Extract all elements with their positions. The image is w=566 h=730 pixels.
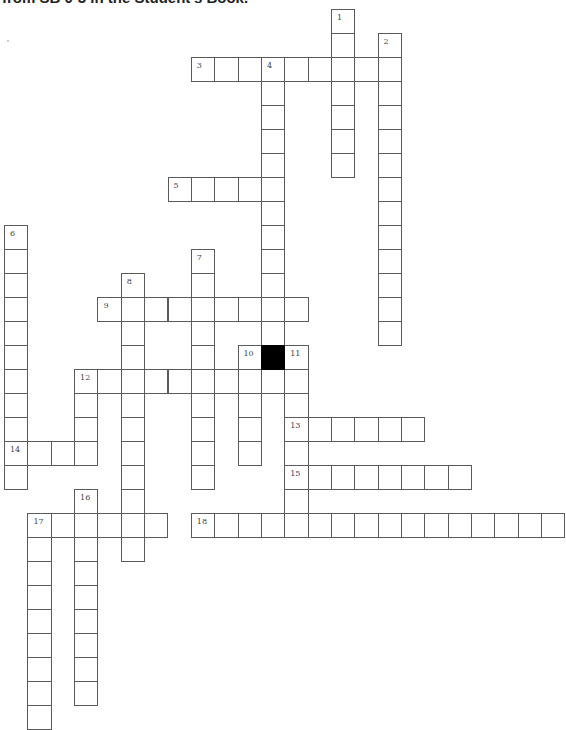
crossword-cell[interactable] bbox=[74, 537, 98, 562]
crossword-cell[interactable] bbox=[238, 417, 262, 442]
crossword-cell[interactable] bbox=[354, 465, 378, 490]
crossword-cell[interactable] bbox=[97, 513, 121, 538]
crossword-cell[interactable]: 3 bbox=[191, 57, 215, 82]
crossword-cell[interactable] bbox=[121, 417, 145, 442]
crossword-cell[interactable]: 15 bbox=[284, 465, 308, 490]
crossword-cell[interactable] bbox=[238, 369, 262, 394]
crossword-cell[interactable] bbox=[448, 513, 472, 538]
crossword-cell[interactable] bbox=[284, 57, 308, 82]
crossword-cell[interactable] bbox=[74, 441, 98, 466]
crossword-cell[interactable] bbox=[74, 561, 98, 586]
crossword-cell[interactable] bbox=[331, 33, 355, 58]
crossword-cell[interactable] bbox=[378, 465, 402, 490]
crossword-cell[interactable] bbox=[401, 465, 425, 490]
crossword-cell[interactable] bbox=[27, 561, 51, 586]
crossword-cell[interactable] bbox=[424, 465, 448, 490]
crossword-cell[interactable] bbox=[494, 513, 518, 538]
crossword-cell[interactable] bbox=[261, 249, 285, 274]
crossword-cell[interactable] bbox=[261, 177, 285, 202]
crossword-cell[interactable] bbox=[471, 513, 495, 538]
crossword-cell[interactable]: 4 bbox=[261, 57, 285, 82]
crossword-cell[interactable] bbox=[121, 369, 145, 394]
crossword-cell[interactable] bbox=[97, 369, 121, 394]
crossword-cell[interactable] bbox=[541, 513, 565, 538]
crossword-cell[interactable] bbox=[168, 369, 192, 394]
crossword-cell[interactable] bbox=[121, 345, 145, 370]
crossword-cell[interactable] bbox=[4, 417, 28, 442]
crossword-cell[interactable] bbox=[74, 657, 98, 682]
crossword-cell[interactable]: 12 bbox=[74, 369, 98, 394]
crossword-cell[interactable] bbox=[4, 273, 28, 298]
crossword-cell[interactable] bbox=[261, 105, 285, 130]
crossword-cell[interactable] bbox=[214, 177, 238, 202]
crossword-cell[interactable]: 11 bbox=[284, 345, 308, 370]
crossword-cell[interactable] bbox=[4, 249, 28, 274]
crossword-cell[interactable] bbox=[518, 513, 542, 538]
crossword-cell[interactable] bbox=[191, 345, 215, 370]
crossword-cell[interactable]: 1 bbox=[331, 9, 355, 34]
crossword-cell[interactable]: 7 bbox=[191, 249, 215, 274]
crossword-cell[interactable] bbox=[378, 321, 402, 346]
crossword-cell[interactable] bbox=[238, 393, 262, 418]
crossword-cell[interactable] bbox=[214, 297, 238, 322]
crossword-cell[interactable] bbox=[378, 417, 402, 442]
crossword-cell[interactable] bbox=[308, 465, 332, 490]
crossword-cell[interactable] bbox=[191, 273, 215, 298]
crossword-cell[interactable] bbox=[378, 129, 402, 154]
crossword-cell[interactable] bbox=[331, 129, 355, 154]
crossword-cell[interactable] bbox=[378, 225, 402, 250]
crossword-cell[interactable] bbox=[378, 249, 402, 274]
crossword-cell[interactable]: 5 bbox=[168, 177, 192, 202]
crossword-cell[interactable] bbox=[27, 585, 51, 610]
crossword-cell[interactable] bbox=[4, 465, 28, 490]
crossword-cell[interactable]: 9 bbox=[97, 297, 121, 322]
crossword-cell[interactable] bbox=[144, 369, 168, 394]
crossword-cell[interactable] bbox=[144, 513, 168, 538]
crossword-cell[interactable] bbox=[144, 297, 168, 322]
crossword-cell[interactable] bbox=[261, 201, 285, 226]
crossword-cell[interactable] bbox=[191, 321, 215, 346]
crossword-cell[interactable] bbox=[121, 489, 145, 514]
crossword-cell[interactable]: 16 bbox=[74, 489, 98, 514]
crossword-cell[interactable] bbox=[51, 441, 75, 466]
crossword-cell[interactable]: 18 bbox=[191, 513, 215, 538]
crossword-cell[interactable] bbox=[191, 177, 215, 202]
crossword-cell[interactable] bbox=[4, 345, 28, 370]
crossword-cell[interactable] bbox=[331, 81, 355, 106]
crossword-cell[interactable] bbox=[284, 369, 308, 394]
crossword-cell[interactable] bbox=[261, 297, 285, 322]
crossword-cell[interactable] bbox=[284, 513, 308, 538]
crossword-cell[interactable] bbox=[261, 273, 285, 298]
crossword-cell[interactable] bbox=[261, 513, 285, 538]
crossword-cell[interactable] bbox=[4, 321, 28, 346]
crossword-cell[interactable] bbox=[331, 153, 355, 178]
crossword-cell[interactable] bbox=[378, 105, 402, 130]
crossword-cell[interactable] bbox=[261, 129, 285, 154]
crossword-cell[interactable] bbox=[331, 57, 355, 82]
crossword-cell[interactable] bbox=[378, 513, 402, 538]
crossword-cell[interactable] bbox=[308, 513, 332, 538]
crossword-cell[interactable] bbox=[331, 105, 355, 130]
crossword-cell[interactable] bbox=[191, 465, 215, 490]
crossword-cell[interactable] bbox=[331, 465, 355, 490]
crossword-cell[interactable]: 13 bbox=[284, 417, 308, 442]
crossword-cell[interactable] bbox=[401, 417, 425, 442]
crossword-cell[interactable] bbox=[238, 513, 262, 538]
crossword-cell[interactable] bbox=[121, 321, 145, 346]
crossword-cell[interactable] bbox=[27, 633, 51, 658]
crossword-cell[interactable] bbox=[191, 297, 215, 322]
crossword-cell[interactable] bbox=[284, 441, 308, 466]
crossword-cell[interactable]: 10 bbox=[238, 345, 262, 370]
crossword-cell[interactable] bbox=[191, 369, 215, 394]
crossword-cell[interactable] bbox=[191, 417, 215, 442]
crossword-cell[interactable] bbox=[74, 633, 98, 658]
crossword-cell[interactable]: 14 bbox=[4, 441, 28, 466]
crossword-cell[interactable] bbox=[378, 177, 402, 202]
crossword-cell[interactable] bbox=[284, 393, 308, 418]
crossword-cell[interactable] bbox=[27, 537, 51, 562]
crossword-cell[interactable] bbox=[74, 681, 98, 706]
crossword-cell[interactable] bbox=[121, 513, 145, 538]
crossword-cell[interactable] bbox=[27, 441, 51, 466]
crossword-cell[interactable] bbox=[284, 297, 308, 322]
crossword-cell[interactable]: 8 bbox=[121, 273, 145, 298]
